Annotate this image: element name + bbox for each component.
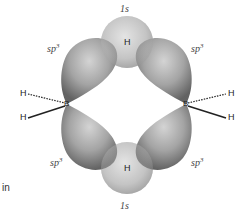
bond-wedge-left [28,106,65,118]
label-1s-top: 1s [120,4,129,14]
label-sp3-lower-left: sp3 [50,158,62,168]
atom-b-right: B [183,100,188,108]
label-sp3-upper-right: sp3 [191,44,203,54]
atom-h-terminal-left-bottom: H [20,113,27,122]
bond-dashed-right [188,94,226,103]
bond-dashed-left [28,94,65,103]
orbital-drawing [0,0,242,214]
label-1s-bottom: 1s [120,201,129,211]
atom-h-bridge-top: H [124,38,131,47]
atom-h-terminal-left-top: H [20,89,27,98]
atom-h-terminal-right-bottom: H [228,113,235,122]
side-text: in [2,183,10,193]
atom-b-left: B [64,100,69,108]
atom-h-bridge-bottom: H [124,164,131,173]
label-sp3-lower-right: sp3 [191,158,203,168]
atom-h-terminal-right-top: H [228,89,235,98]
bond-wedge-right [188,106,226,118]
label-sp3-upper-left: sp3 [47,44,59,54]
diborane-diagram: 1s 1s sp3 sp3 sp3 sp3 H H B B H H H H in [0,0,242,214]
